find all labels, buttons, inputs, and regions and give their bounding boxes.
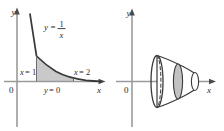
right-bound-eq: =: [79, 67, 84, 77]
lower-bound-value: 0: [56, 85, 60, 95]
left-panel-region-plot: y x 0 y = 1 x x = 1 x = 2: [0, 0, 112, 131]
figure-root: y x 0 y = 1 x x = 1 x = 2: [0, 0, 224, 131]
right-panel-solid-plot: y x 0: [112, 0, 224, 131]
right-bound-var: x: [73, 67, 78, 77]
left-bound-var: x: [19, 67, 24, 77]
lower-bound-var: y: [43, 85, 48, 95]
left-bound-label: x = 1: [19, 67, 36, 77]
lower-bound-label: y = 0: [43, 85, 60, 95]
curve-label-denominator: x: [59, 30, 64, 40]
right-face-ellipse: [191, 73, 198, 91]
curve-label-y: y: [43, 22, 48, 32]
cross-section-disk: [173, 64, 182, 99]
right-bound-label: x = 2: [73, 67, 90, 77]
right-panel-svg: y x 0: [112, 0, 224, 131]
x-axis-arrowhead: [209, 79, 216, 85]
curve-label-equals: =: [51, 22, 56, 32]
left-panel-svg: y x 0 y = 1 x x = 1 x = 2: [0, 0, 112, 131]
origin-label: 0: [124, 85, 129, 95]
y-axis-label: y: [126, 8, 131, 18]
y-axis-label: y: [11, 7, 16, 17]
left-bound-eq: =: [25, 67, 30, 77]
curve-label-numerator: 1: [59, 19, 63, 29]
x-axis-label: x: [206, 85, 211, 95]
origin-label: 0: [9, 85, 14, 95]
shaded-region: [37, 56, 74, 82]
right-bound-value: 2: [86, 67, 90, 77]
curve-equation-label: y = 1 x: [43, 19, 66, 40]
x-axis-label: x: [96, 85, 101, 95]
left-bound-value: 1: [32, 67, 36, 77]
lower-bound-eq: =: [49, 85, 54, 95]
